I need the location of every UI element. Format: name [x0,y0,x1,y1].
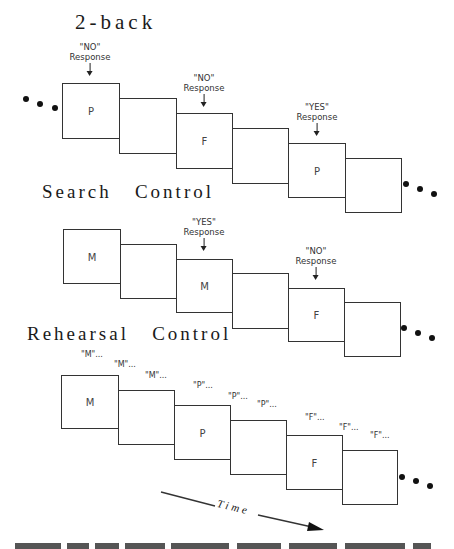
stimulus-box: P [62,83,120,139]
down-arrow-icon [203,94,204,103]
rehearsal-label: "P"... [257,400,277,409]
ellipsis-dot [52,105,58,111]
rehearsal-label: "P"... [193,381,213,390]
stimulus-box: F [288,288,345,342]
stimulus-box [345,158,402,213]
response-marker: "NO" Response [296,247,337,276]
rehearsal-label: "M"... [145,371,167,380]
response-label: Response [184,228,225,238]
ellipsis-dot [417,186,423,192]
stimulus-letter: F [289,310,344,321]
stimulus-box [344,302,401,357]
stimulus-letter: P [63,106,119,117]
stimulus-box [230,420,287,475]
truncated-caption [15,541,439,549]
rehearsal-label: "F"... [305,413,325,422]
two-back-title: 2-back [75,10,156,35]
down-arrow-icon [203,238,204,247]
down-arrow-icon [89,63,90,72]
ellipsis-dot [37,101,43,107]
stimulus-box [232,128,289,184]
stimulus-box: P [174,405,231,460]
rehearsal-control-title: Rehearsal Control [27,323,231,345]
ellipsis-dot [399,474,405,480]
ellipsis-dot [413,478,419,484]
response-marker: "YES" Response [184,218,225,247]
response-label: Response [297,113,338,123]
response-marker: "YES" Response [297,103,338,132]
stimulus-letter: P [289,165,345,176]
stimulus-box: M [61,375,119,429]
down-arrow-icon [315,267,316,276]
stimulus-letter: M [177,281,232,292]
stimulus-letter: F [287,457,342,468]
stimulus-box: P [288,143,346,198]
ellipsis-dot [427,483,433,489]
stimulus-letter: M [62,397,118,408]
stimulus-box: M [63,229,121,284]
down-arrow-icon [316,123,317,132]
stimulus-letter: P [175,427,230,438]
response-label: Response [70,53,111,63]
rehearsal-label: "F"... [370,431,390,440]
search-control-title: Search Control [42,181,214,203]
rehearsal-label: "M"... [114,360,136,369]
response-marker: "NO" Response [70,43,111,72]
response-label: Response [184,84,225,94]
rehearsal-label: "M"... [81,350,103,359]
rehearsal-label: "P"... [228,392,248,401]
ellipsis-dot [429,335,435,341]
stimulus-box [118,390,175,445]
stimulus-letter: M [64,251,120,262]
ellipsis-dot [23,96,29,102]
time-label: Time [216,497,251,517]
rehearsal-label: "F"... [339,423,359,432]
stimulus-box: F [176,113,233,169]
stimulus-letter: F [177,136,232,147]
stimulus-box [342,450,398,505]
ellipsis-dot [401,325,407,331]
stimulus-box [120,244,177,299]
stimulus-box: M [176,259,233,313]
stimulus-box [232,273,289,329]
response-label: Response [296,257,337,267]
ellipsis-dot [403,181,409,187]
stimulus-box: F [286,435,343,490]
ellipsis-dot [431,191,437,197]
response-marker: "NO" Response [184,74,225,103]
ellipsis-dot [415,330,421,336]
stimulus-box [119,98,177,154]
